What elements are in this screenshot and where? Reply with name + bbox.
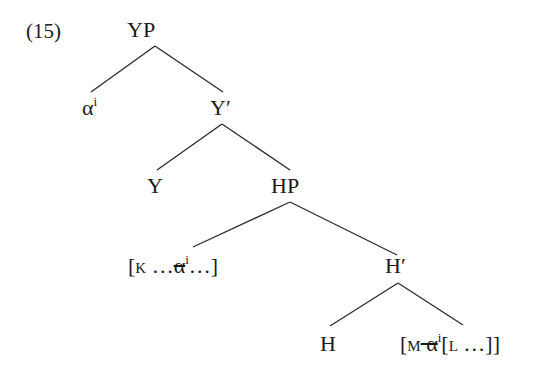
edge-yp-alpha (91, 46, 155, 92)
edge-ybar-y (157, 124, 222, 170)
alpha-index: i (94, 94, 98, 109)
k-alpha-index: i (185, 252, 189, 267)
example-number: (15) (26, 20, 61, 42)
syntax-tree-diagram: (15) YP αi Y′ Y HP [K …αi…] H′ H [M αi[L… (0, 0, 551, 367)
k-dots-right: …] (189, 253, 218, 278)
node-h-bar: H′ (385, 255, 406, 277)
edge-ybar-hp (222, 124, 290, 170)
node-alpha: αi (82, 97, 97, 122)
k-dots-left: … (146, 253, 174, 278)
m-alpha-index: i (438, 330, 442, 345)
node-k-phrase: [K …αi…] (128, 255, 218, 280)
k-category: K (135, 260, 146, 276)
edge-hp-hbar (290, 202, 397, 255)
node-hp: HP (271, 175, 299, 197)
m-alpha-trace: α (421, 331, 438, 356)
node-h-head: H (320, 333, 336, 355)
node-yp: YP (127, 19, 155, 41)
k-alpha-trace: α (174, 253, 186, 278)
l-open-bracket: [ (441, 331, 448, 356)
m-category: M (407, 338, 420, 354)
l-category: L (449, 338, 458, 354)
alpha-symbol: α (82, 95, 94, 120)
node-y-head: Y (147, 175, 163, 197)
edge-hp-k (193, 202, 290, 247)
edge-yp-ybar (155, 46, 223, 92)
node-m-phrase: [M αi[L …]] (400, 333, 500, 358)
node-y-bar: Y′ (210, 97, 231, 119)
edge-hbar-h (330, 283, 398, 326)
l-rest: …]] (458, 331, 500, 356)
edge-hbar-m (398, 283, 463, 325)
